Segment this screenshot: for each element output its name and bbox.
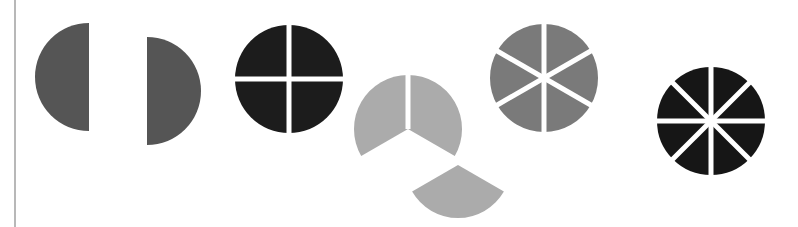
fraction-circles-figure [0, 0, 798, 227]
quarter-piece-4 [235, 25, 289, 79]
quarter-piece-3 [235, 79, 289, 133]
quarters-circle [233, 23, 345, 135]
quarter-piece-1 [289, 25, 343, 79]
third-piece-3-detached [412, 165, 504, 218]
thirds-circle [354, 73, 504, 218]
half-piece-right [147, 37, 201, 145]
halves-circle [35, 23, 201, 145]
eighths-circle [655, 65, 767, 177]
sixths-circle [490, 22, 598, 134]
quarter-piece-2 [289, 79, 343, 133]
half-piece-left [35, 23, 89, 131]
third-piece-2 [408, 75, 462, 156]
third-piece-1 [354, 75, 408, 156]
